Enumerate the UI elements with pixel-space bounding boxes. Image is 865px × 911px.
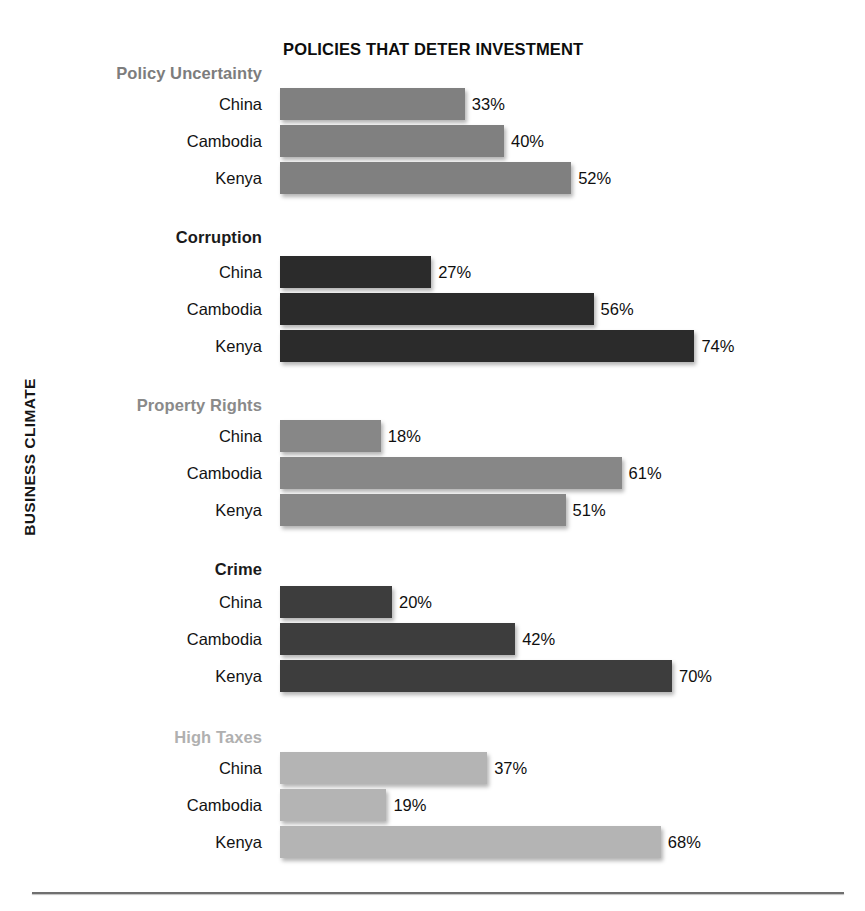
bar-track: 68%	[280, 826, 840, 858]
category-label: Kenya	[0, 494, 262, 526]
bar-row: China18%	[0, 420, 865, 457]
group-label: Property Rights	[0, 396, 262, 415]
bar-track: 27%	[280, 256, 840, 288]
bar-row: China37%	[0, 752, 865, 789]
bar-row: China33%	[0, 88, 865, 125]
bar-track: 18%	[280, 420, 840, 452]
bar-row: Cambodia56%	[0, 293, 865, 330]
bar-value-label: 56%	[594, 293, 634, 325]
bar-value-label: 68%	[661, 826, 701, 858]
bar-track: 20%	[280, 586, 840, 618]
bar-row: Cambodia40%	[0, 125, 865, 162]
category-label: China	[0, 420, 262, 452]
bar-value-label: 37%	[487, 752, 527, 784]
bar-row: Kenya74%	[0, 330, 865, 367]
category-label: China	[0, 88, 262, 120]
bar	[280, 494, 566, 526]
bar-value-label: 19%	[386, 789, 426, 821]
category-label: Cambodia	[0, 293, 262, 325]
bar-row: Kenya51%	[0, 494, 865, 531]
bar-row: Cambodia19%	[0, 789, 865, 826]
bar-track: 70%	[280, 660, 840, 692]
bar-value-label: 42%	[515, 623, 555, 655]
bar-row: Kenya52%	[0, 162, 865, 199]
category-label: China	[0, 586, 262, 618]
bar	[280, 88, 465, 120]
bar-track: 52%	[280, 162, 840, 194]
category-label: China	[0, 752, 262, 784]
bar-track: 40%	[280, 125, 840, 157]
bar-track: 51%	[280, 494, 840, 526]
bar	[280, 789, 386, 821]
group-label: Corruption	[0, 228, 262, 247]
bar-row: Kenya68%	[0, 826, 865, 863]
bar	[280, 162, 571, 194]
bar-row: China27%	[0, 256, 865, 293]
category-label: China	[0, 256, 262, 288]
bar	[280, 623, 515, 655]
bar-row: China20%	[0, 586, 865, 623]
bar-track: 37%	[280, 752, 840, 784]
bar	[280, 420, 381, 452]
bar	[280, 586, 392, 618]
bar-track: 33%	[280, 88, 840, 120]
bar-value-label: 40%	[504, 125, 544, 157]
category-label: Cambodia	[0, 623, 262, 655]
bar-value-label: 70%	[672, 660, 712, 692]
bar-track: 19%	[280, 789, 840, 821]
bar	[280, 457, 622, 489]
bar-value-label: 61%	[622, 457, 662, 489]
bar	[280, 330, 694, 362]
bar-value-label: 51%	[566, 494, 606, 526]
bar-track: 56%	[280, 293, 840, 325]
bar-value-label: 20%	[392, 586, 432, 618]
group-label: High Taxes	[0, 728, 262, 747]
bar-row: Kenya70%	[0, 660, 865, 697]
chart-container: BUSINESS CLIMATE POLICIES THAT DETER INV…	[0, 0, 865, 911]
bottom-divider	[32, 892, 844, 894]
category-label: Cambodia	[0, 125, 262, 157]
bar-value-label: 27%	[431, 256, 471, 288]
bar	[280, 293, 594, 325]
bar	[280, 826, 661, 858]
group-label: Policy Uncertainty	[0, 64, 262, 83]
bar-row: Cambodia61%	[0, 457, 865, 494]
bar-value-label: 18%	[381, 420, 421, 452]
bar-value-label: 33%	[465, 88, 505, 120]
category-label: Kenya	[0, 330, 262, 362]
category-label: Cambodia	[0, 457, 262, 489]
bar-value-label: 52%	[571, 162, 611, 194]
group-label: Crime	[0, 560, 262, 579]
bar-value-label: 74%	[694, 330, 734, 362]
category-label: Kenya	[0, 162, 262, 194]
bar	[280, 256, 431, 288]
bar-row: Cambodia42%	[0, 623, 865, 660]
category-label: Kenya	[0, 826, 262, 858]
bar-track: 42%	[280, 623, 840, 655]
bar	[280, 660, 672, 692]
bar	[280, 125, 504, 157]
category-label: Cambodia	[0, 789, 262, 821]
bar-track: 61%	[280, 457, 840, 489]
chart-title: POLICIES THAT DETER INVESTMENT	[283, 40, 583, 59]
bar-track: 74%	[280, 330, 840, 362]
bar	[280, 752, 487, 784]
category-label: Kenya	[0, 660, 262, 692]
